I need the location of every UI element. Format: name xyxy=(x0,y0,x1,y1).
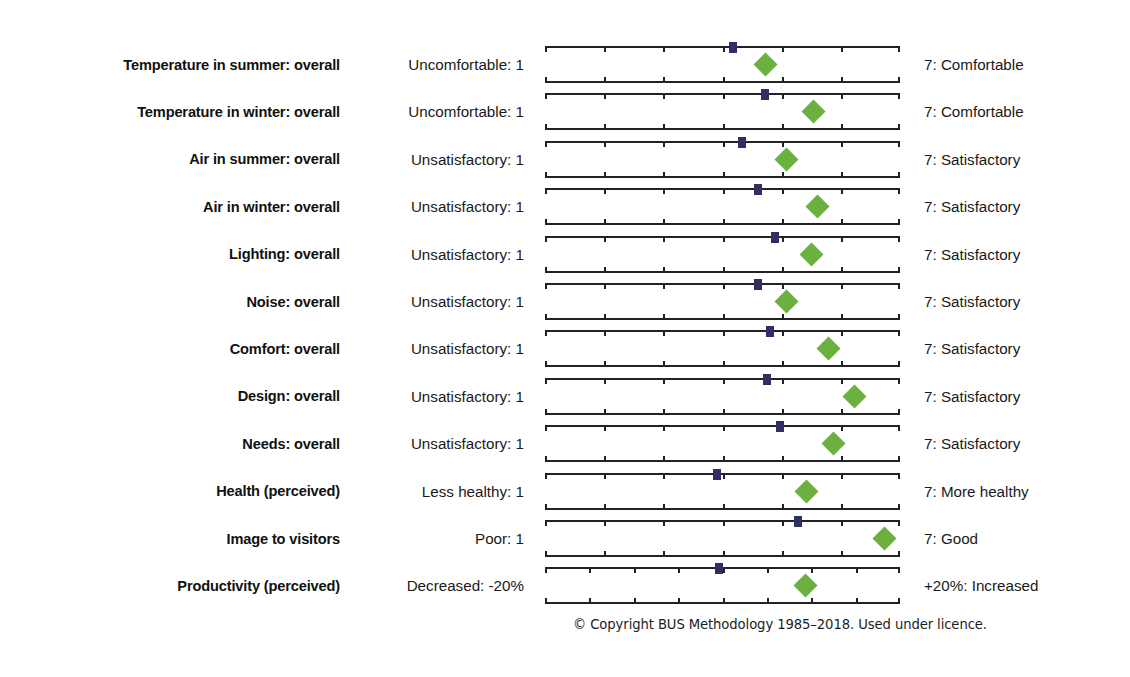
row-category-label: Needs: overall xyxy=(0,436,340,452)
scale-tick xyxy=(604,236,606,242)
survey-row: Image to visitorsPoor: 17: Good xyxy=(0,515,1130,562)
scale-tick xyxy=(841,504,843,510)
scale-tick xyxy=(663,236,665,242)
scale-right-anchor: 7: Comfortable xyxy=(901,103,1101,120)
row-category-label: Health (perceived) xyxy=(0,483,340,499)
scale-tick xyxy=(898,77,900,83)
row-category-label: Lighting: overall xyxy=(0,246,340,262)
survey-row: Air in winter: overallUnsatisfactory: 17… xyxy=(0,183,1130,230)
scale-tick xyxy=(663,46,665,52)
scale-tick xyxy=(723,473,725,479)
scale-tick xyxy=(898,46,900,52)
scale-tick xyxy=(723,283,725,289)
scale-tick xyxy=(604,504,606,510)
scale-tick xyxy=(841,314,843,320)
benchmark-marker xyxy=(776,421,784,432)
scale-right-anchor: +20%: Increased xyxy=(901,577,1101,594)
scale-tick xyxy=(604,378,606,384)
scale-tick xyxy=(663,172,665,178)
scale-tick xyxy=(723,141,725,147)
scale-tick xyxy=(545,551,547,557)
benchmark-marker xyxy=(761,89,769,100)
scale-right-anchor: 7: Good xyxy=(901,530,1101,547)
survey-row: Needs: overallUnsatisfactory: 17: Satisf… xyxy=(0,420,1130,467)
benchmark-marker xyxy=(794,516,802,527)
scale-tick xyxy=(898,567,900,573)
scale-left-anchor: Uncomfortable: 1 xyxy=(340,56,545,73)
scale-tick xyxy=(782,141,784,147)
scale-tick xyxy=(782,473,784,479)
scale-tick xyxy=(841,172,843,178)
scale-tick xyxy=(545,456,547,462)
survey-row: Health (perceived)Less healthy: 17: More… xyxy=(0,468,1130,515)
scale-tick xyxy=(604,520,606,526)
scale-tick xyxy=(723,219,725,225)
row-category-label: Air in summer: overall xyxy=(0,151,340,167)
scale-tick xyxy=(782,267,784,273)
scale-tick xyxy=(663,77,665,83)
scale-tick xyxy=(723,314,725,320)
benchmark-marker xyxy=(738,137,746,148)
scale-tick xyxy=(898,124,900,130)
scale-tick xyxy=(545,409,547,415)
score-marker xyxy=(873,526,897,550)
scale-track xyxy=(545,41,901,88)
scale-tick xyxy=(663,124,665,130)
benchmark-marker xyxy=(729,42,737,53)
score-marker xyxy=(822,432,846,456)
scale-tick xyxy=(841,188,843,194)
scale-tick xyxy=(723,361,725,367)
scale-right-anchor: 7: Satisfactory xyxy=(901,151,1101,168)
scale-tick xyxy=(604,456,606,462)
scale-tick xyxy=(898,236,900,242)
score-marker xyxy=(816,337,840,361)
scale-tick xyxy=(782,236,784,242)
scale-left-anchor: Less healthy: 1 xyxy=(340,483,545,500)
scale-tick xyxy=(782,93,784,99)
scale-tick xyxy=(723,378,725,384)
scale-tick xyxy=(723,188,725,194)
score-marker xyxy=(774,147,798,171)
scale-right-anchor: 7: Satisfactory xyxy=(901,340,1101,357)
scale-left-anchor: Unsatisfactory: 1 xyxy=(340,340,545,357)
scale-tick xyxy=(545,46,547,52)
scale-tick xyxy=(898,504,900,510)
scale-tick xyxy=(811,598,813,604)
benchmark-marker xyxy=(771,232,779,243)
scale-tick xyxy=(663,219,665,225)
scale-tick xyxy=(841,236,843,242)
scale-tick xyxy=(604,283,606,289)
scale-tick xyxy=(841,219,843,225)
scale-tick xyxy=(841,124,843,130)
scale-tick xyxy=(723,598,725,604)
survey-row: Temperature in summer: overallUncomforta… xyxy=(0,41,1130,88)
scale-track xyxy=(545,468,901,515)
scale-tick xyxy=(545,425,547,431)
survey-row: Design: overallUnsatisfactory: 17: Satis… xyxy=(0,373,1130,420)
scale-tick xyxy=(898,473,900,479)
scale-tick xyxy=(782,188,784,194)
scale-left-anchor: Unsatisfactory: 1 xyxy=(340,388,545,405)
row-category-label: Temperature in summer: overall xyxy=(0,57,340,73)
row-category-label: Comfort: overall xyxy=(0,341,340,357)
survey-row: Comfort: overallUnsatisfactory: 17: Sati… xyxy=(0,325,1130,372)
scale-tick xyxy=(545,520,547,526)
scale-tick xyxy=(545,378,547,384)
scale-tick xyxy=(663,473,665,479)
scale-right-anchor: 7: Satisfactory xyxy=(901,435,1101,452)
scale-tick xyxy=(663,504,665,510)
scale-tick xyxy=(782,409,784,415)
scale-tick xyxy=(545,330,547,336)
scale-tick xyxy=(663,378,665,384)
score-marker xyxy=(753,52,777,76)
score-marker xyxy=(793,574,817,598)
benchmark-marker xyxy=(715,563,723,574)
scale-tick xyxy=(898,330,900,336)
scale-tick xyxy=(545,504,547,510)
scale-right-anchor: 7: Satisfactory xyxy=(901,198,1101,215)
scale-tick xyxy=(604,124,606,130)
row-category-label: Temperature in winter: overall xyxy=(0,104,340,120)
scale-tick xyxy=(634,567,636,573)
scale-tick xyxy=(604,219,606,225)
scale-tick xyxy=(545,141,547,147)
